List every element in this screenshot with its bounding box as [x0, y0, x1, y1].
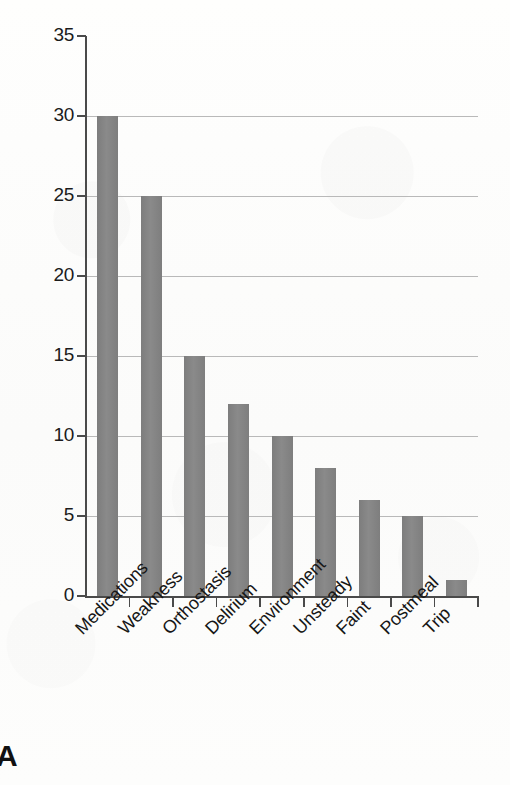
y-axis-tick-label: 20 [30, 264, 74, 286]
y-axis-tick-label: 15 [30, 344, 74, 366]
x-axis-tick [172, 597, 174, 607]
y-axis-labels-group: 05101520253035 [22, 0, 74, 785]
y-axis-tick-label: 25 [30, 184, 74, 206]
y-axis-line [85, 36, 87, 597]
x-axis-tick [303, 597, 305, 607]
y-axis-tick-label: 5 [30, 504, 74, 526]
y-axis-tick [77, 275, 86, 277]
y-axis-tick [77, 435, 86, 437]
bar [97, 116, 118, 596]
x-axis-tick [347, 597, 349, 607]
y-axis-tick [77, 115, 86, 117]
x-axis-tick [390, 597, 392, 607]
y-axis-tick-label: 35 [30, 24, 74, 46]
x-axis-tick [216, 597, 218, 607]
y-axis-tick-label: 10 [30, 424, 74, 446]
y-axis-tick [77, 35, 86, 37]
gridline [86, 116, 478, 117]
y-axis-tick-label: 30 [30, 104, 74, 126]
y-axis-tick [77, 515, 86, 517]
bar [141, 196, 162, 596]
plot-area [86, 36, 478, 596]
bar [359, 500, 380, 596]
x-axis-tick [477, 597, 479, 607]
y-axis-tick-label: 0 [30, 584, 74, 606]
bar [184, 356, 205, 596]
x-axis-tick [259, 597, 261, 607]
panel-letter: A [0, 739, 18, 773]
y-axis-tick [77, 595, 86, 597]
chart-page: 05101520253035 MedicationsWeaknessOrthos… [0, 0, 510, 785]
bar [228, 404, 249, 596]
bar [446, 580, 467, 596]
x-axis-tick [434, 597, 436, 607]
y-axis-tick [77, 195, 86, 197]
y-axis-tick [77, 355, 86, 357]
x-axis-tick [129, 597, 131, 607]
x-axis-category-label: Trip [419, 603, 455, 639]
bar [272, 436, 293, 596]
